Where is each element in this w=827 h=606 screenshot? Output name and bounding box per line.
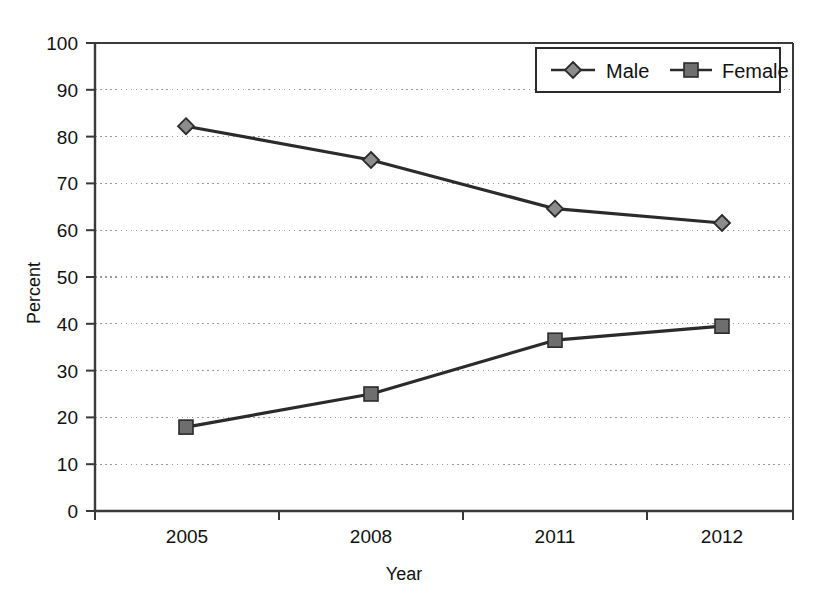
- y-tick-label-90: 90: [57, 80, 78, 101]
- plot-area-background: [95, 43, 793, 511]
- x-tick-label-2008: 2008: [350, 526, 392, 547]
- female-point-2011: [548, 333, 562, 347]
- line-chart: 100 90 80 70 60 50 40 30 20 10 0 2005 20…: [0, 0, 827, 606]
- y-tick-label-20: 20: [57, 407, 78, 428]
- x-axis-title: Year: [386, 564, 422, 584]
- y-tick-label-0: 0: [67, 501, 78, 522]
- y-tick-label-30: 30: [57, 361, 78, 382]
- y-tick-label-40: 40: [57, 314, 78, 335]
- chart-legend[interactable]: Male Female: [536, 48, 789, 92]
- square-marker-icon: [684, 63, 698, 77]
- x-tick-label-2011: 2011: [535, 526, 576, 547]
- y-axis-title: Percent: [24, 262, 44, 324]
- female-point-2008: [364, 387, 378, 401]
- y-tick-label-10: 10: [57, 454, 78, 475]
- legend-label-female: Female: [722, 60, 789, 82]
- y-tick-label-80: 80: [57, 127, 78, 148]
- y-axis-ticks: [86, 43, 95, 511]
- y-tick-label-50: 50: [57, 267, 78, 288]
- x-tick-label-2012: 2012: [701, 526, 743, 547]
- y-tick-label-100: 100: [46, 33, 78, 54]
- y-tick-label-60: 60: [57, 220, 78, 241]
- female-point-2005: [179, 420, 193, 434]
- y-tick-label-70: 70: [57, 173, 78, 194]
- x-tick-label-2005: 2005: [166, 526, 208, 547]
- x-axis-tick-labels: 2005 2008 2011 2012: [166, 526, 743, 547]
- chart-canvas: 100 90 80 70 60 50 40 30 20 10 0 2005 20…: [0, 0, 827, 606]
- y-axis-tick-labels: 100 90 80 70 60 50 40 30 20 10 0: [46, 33, 78, 522]
- legend-label-male: Male: [606, 60, 649, 82]
- x-axis-ticks: [95, 511, 793, 520]
- female-point-2012: [715, 319, 729, 333]
